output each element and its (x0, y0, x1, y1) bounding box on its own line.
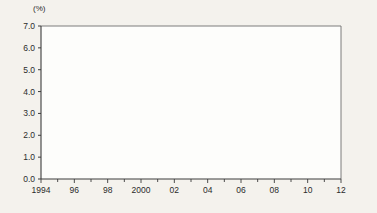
y-axis-unit-label: (%) (33, 4, 46, 13)
x-tick-label: 1994 (32, 185, 51, 195)
x-tick-label: 12 (336, 185, 346, 195)
y-tick-label: 6.0 (23, 43, 35, 53)
y-tick-label: 1.0 (23, 152, 35, 162)
x-tick-label: 02 (170, 185, 180, 195)
x-tick-label: 10 (303, 185, 313, 195)
x-tick-label: 96 (70, 185, 80, 195)
y-tick-label: 2.0 (23, 130, 35, 140)
x-tick-label: 2000 (132, 185, 151, 195)
y-tick-label: 3.0 (23, 108, 35, 118)
line-chart: 0.01.02.03.04.05.06.07.0(%)1994969820000… (0, 0, 377, 213)
y-tick-label: 7.0 (23, 21, 35, 31)
x-tick-label: 98 (103, 185, 113, 195)
plot-background (41, 26, 341, 179)
x-tick-label: 06 (236, 185, 246, 195)
y-tick-label: 0.0 (23, 174, 35, 184)
chart-container: 0.01.02.03.04.05.06.07.0(%)1994969820000… (0, 0, 377, 213)
x-tick-label: 08 (270, 185, 280, 195)
x-tick-label: 04 (203, 185, 213, 195)
y-tick-label: 5.0 (23, 65, 35, 75)
y-tick-label: 4.0 (23, 87, 35, 97)
